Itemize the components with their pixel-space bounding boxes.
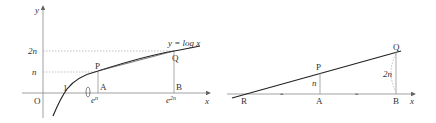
line-RQ (232, 51, 401, 98)
point-P-label-right: P (316, 62, 321, 72)
chord-PQ (98, 51, 174, 71)
point-R-label: R (241, 96, 247, 106)
y-tick-n: n (32, 67, 37, 77)
point-B-label: B (176, 82, 182, 92)
left-figure: y x O 1 2n n y = log x P Q A B en e2n (22, 5, 210, 118)
region-marker-icon (86, 87, 90, 97)
x-tick-e2n: e2n (166, 95, 176, 105)
diagram-canvas: y x O 1 2n n y = log x P Q A B en e2n = … (0, 0, 436, 123)
point-B-label-right: B (393, 96, 399, 106)
point-A-label: A (100, 82, 107, 92)
point-Q-label: Q (172, 53, 179, 63)
right-figure: = = R A B P Q n 2n x (227, 42, 415, 106)
point-Q-label-right: Q (393, 42, 400, 52)
length-2n-label: 2n (383, 69, 393, 79)
point-A-label-right: A (316, 96, 323, 106)
point-P-label: P (95, 61, 100, 71)
curve-label: y = log x (167, 38, 200, 48)
x-axis-label: x (204, 96, 209, 106)
x-axis-label-right: x (409, 96, 414, 106)
one-label: 1 (63, 83, 68, 93)
y-tick-2n: 2n (28, 46, 38, 56)
x-tick-en: en (91, 95, 98, 105)
origin-label: O (34, 96, 41, 106)
y-axis-label: y (34, 5, 39, 15)
length-n-label: n (312, 78, 317, 88)
